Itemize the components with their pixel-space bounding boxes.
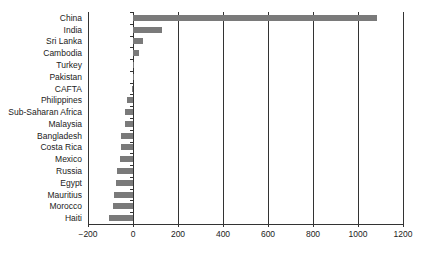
category-label: China (60, 13, 82, 23)
y-tick-mark (130, 59, 133, 60)
x-tick-label: 1000 (338, 229, 378, 239)
bar (127, 97, 133, 103)
x-tick-mark (178, 224, 179, 227)
x-tick-label: 0 (113, 229, 153, 239)
bar (125, 109, 133, 115)
x-axis-line (88, 224, 404, 225)
y-tick-mark (130, 94, 133, 95)
y-tick-mark (130, 12, 133, 13)
bar (125, 121, 133, 127)
x-tick-mark (88, 224, 89, 227)
gridline (223, 12, 224, 224)
y-tick-mark (130, 36, 133, 37)
bar (133, 15, 377, 21)
category-label: Bangladesh (37, 131, 82, 141)
y-axis-line (88, 12, 89, 224)
category-label: Sri Lanka (46, 36, 82, 46)
bar (132, 86, 133, 92)
bar (133, 50, 139, 56)
x-tick-label: 200 (158, 229, 198, 239)
bar (133, 62, 134, 68)
category-label: India (64, 25, 82, 35)
category-label: Cambodia (43, 48, 82, 58)
y-tick-mark (130, 106, 133, 107)
category-label: Mexico (55, 154, 82, 164)
y-tick-mark (130, 118, 133, 119)
category-label: Philippines (41, 95, 82, 105)
bar (117, 168, 133, 174)
category-label: Haiti (65, 213, 82, 223)
x-tick-mark (403, 224, 404, 227)
category-label: Sub-Saharan Africa (8, 107, 82, 117)
bar (114, 192, 133, 198)
x-tick-mark (268, 224, 269, 227)
bar (133, 74, 134, 80)
category-label: Turkey (56, 60, 82, 70)
bar (120, 156, 133, 162)
category-label: Costa Rica (40, 142, 82, 152)
category-label: CAFTA (55, 84, 82, 94)
gridline (178, 12, 179, 224)
y-tick-mark (130, 71, 133, 72)
category-label: Malaysia (48, 119, 82, 129)
y-tick-mark (130, 130, 133, 131)
bar-chart: ChinaIndiaSri LankaCambodiaTurkeyPakista… (0, 0, 424, 254)
gridline (403, 12, 404, 224)
y-tick-mark (130, 165, 133, 166)
category-label: Pakistan (49, 72, 82, 82)
bar (133, 27, 162, 33)
x-tick-label: 600 (248, 229, 288, 239)
bar (121, 144, 133, 150)
x-tick-label: 800 (293, 229, 333, 239)
bar (113, 203, 133, 209)
y-tick-mark (130, 153, 133, 154)
bar (121, 133, 133, 139)
gridline (268, 12, 269, 224)
x-tick-mark (223, 224, 224, 227)
gridline (313, 12, 314, 224)
bar (109, 215, 133, 221)
y-tick-mark (130, 200, 133, 201)
x-tick-label: −200 (68, 229, 108, 239)
y-tick-mark (130, 47, 133, 48)
y-tick-mark (130, 83, 133, 84)
y-tick-mark (130, 189, 133, 190)
y-tick-mark (130, 24, 133, 25)
category-label: Russia (56, 166, 82, 176)
x-tick-mark (133, 224, 134, 227)
y-tick-mark (130, 142, 133, 143)
y-tick-mark (130, 212, 133, 213)
x-tick-mark (313, 224, 314, 227)
y-tick-mark (130, 177, 133, 178)
category-label: Mauritius (48, 190, 82, 200)
bar (133, 38, 143, 44)
x-tick-label: 400 (203, 229, 243, 239)
gridline (358, 12, 359, 224)
category-label: Morocco (49, 201, 82, 211)
x-tick-mark (358, 224, 359, 227)
x-tick-label: 1200 (383, 229, 423, 239)
category-label: Egypt (60, 178, 82, 188)
bar (116, 180, 133, 186)
